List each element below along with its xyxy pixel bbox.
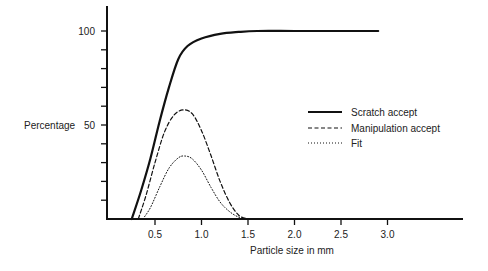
x-tick-label: 0.5 (148, 229, 162, 240)
y-axis-title: Percentage (24, 120, 76, 131)
legend-label: Manipulation accept (351, 123, 440, 134)
chart-canvas: 50100 0.51.01.52.02.53.0 Percentage Part… (0, 0, 488, 271)
x-tick-label: 3.0 (381, 229, 395, 240)
series-line-manipulation-accept (138, 110, 248, 219)
x-tick-label: 2.5 (334, 229, 348, 240)
legend-label: Scratch accept (351, 107, 417, 118)
y-tick-label: 50 (84, 120, 96, 131)
x-tick-label: 2.0 (288, 229, 302, 240)
series-group (132, 31, 378, 219)
y-ticks: 50100 (78, 26, 107, 201)
legend: Scratch acceptManipulation acceptFit (308, 107, 440, 149)
legend-label: Fit (351, 138, 362, 149)
x-tick-label: 1.0 (195, 229, 209, 240)
x-axis-title: Particle size in mm (250, 245, 334, 256)
x-tick-label: 1.5 (241, 229, 255, 240)
series-line-fit (143, 156, 248, 219)
series-line-scratch-accept (132, 31, 378, 219)
x-ticks: 0.51.01.52.02.53.0 (148, 219, 395, 240)
y-tick-label: 100 (78, 26, 95, 37)
